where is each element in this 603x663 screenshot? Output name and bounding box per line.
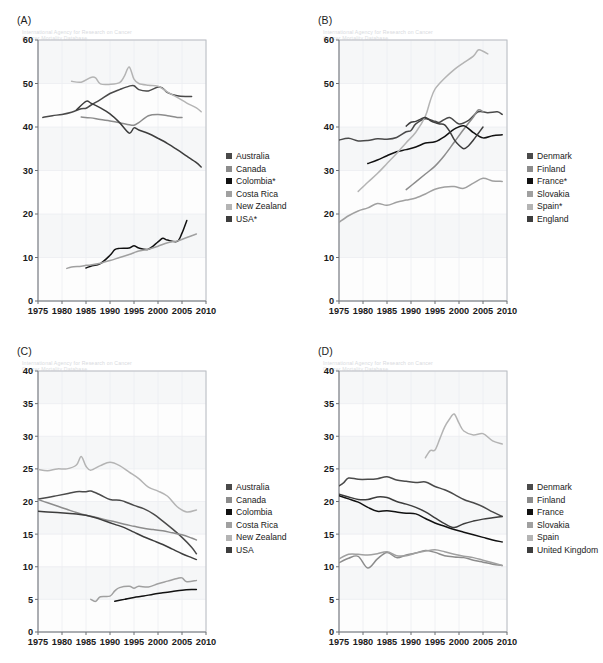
legend-swatch-icon [226,178,232,184]
legend-swatch-icon [226,484,232,490]
legend-swatch-icon [226,216,232,222]
legend-item[interactable]: Costa Rica [226,519,287,532]
legend-item[interactable]: Australia [226,481,287,494]
legend-item-label: France* [537,175,567,188]
y-tick-label: 20 [23,209,33,219]
legend-item-label: Finland [537,494,565,507]
legend-item[interactable]: New Zealand [226,531,287,544]
legend-item-label: United Kingdom [537,544,598,557]
legend-item-label: New Zealand [236,531,287,544]
legend-item[interactable]: United Kingdom [527,544,598,557]
x-tick-label: 1985 [377,637,397,647]
y-tick-label: 35 [23,399,33,409]
y-tick-label: 40 [23,122,33,132]
legend-swatch-icon [226,153,232,159]
legend-swatch-icon [226,522,232,528]
legend-swatch-icon [527,191,533,197]
x-tick-label: 1975 [28,306,48,316]
x-tick-label: 1975 [28,637,48,647]
legend-swatch-icon [226,535,232,541]
legend-item-label: Denmark [537,481,572,494]
legend-item[interactable]: France [527,506,598,519]
x-tick-label: 1980 [52,637,72,647]
legend-item-label: Australia [236,481,269,494]
x-tick-label: 1995 [425,637,445,647]
legend-item[interactable]: Slovakia [527,519,598,532]
x-tick-label: 2010 [497,306,517,316]
y-tick-label: 0 [329,296,334,306]
legend-item[interactable]: Colombia [226,506,287,519]
legend-item[interactable]: Finland [527,163,572,176]
legend-item-label: England [537,213,569,226]
legend-item-label: Spain [537,531,559,544]
legend-item[interactable]: USA* [226,213,287,226]
x-tick-label: 1985 [76,306,96,316]
y-tick-label: 40 [324,122,334,132]
legend-swatch-icon [527,535,533,541]
x-tick-label: 1985 [377,306,397,316]
x-tick-label: 2005 [172,306,192,316]
legend-item[interactable]: Finland [527,494,598,507]
panel-d: (D) International Agency for Research on… [301,331,602,662]
legend-item[interactable]: France* [527,175,572,188]
panel-a-legend: AustraliaCanadaColombia*Costa RicaNew Ze… [226,150,287,226]
y-tick-label: 20 [23,497,33,507]
x-tick-label: 2000 [449,637,469,647]
legend-item[interactable]: England [527,213,572,226]
y-tick-label: 30 [324,166,334,176]
legend-item-label: France [537,506,564,519]
panel-a: (A) International Agency for Research on… [0,0,301,331]
legend-item[interactable]: USA [226,544,287,557]
y-tick-label: 10 [324,562,334,572]
legend-item-label: Australia [236,150,269,163]
legend-item-label: Costa Rica [236,188,278,201]
legend-item[interactable]: Costa Rica [226,188,287,201]
y-tick-label: 15 [324,530,334,540]
legend-item-label: Slovakia [537,188,569,201]
legend-item[interactable]: Spain [527,531,598,544]
legend-item-label: Costa Rica [236,519,278,532]
legend-item[interactable]: Colombia* [226,175,287,188]
y-tick-label: 50 [324,79,334,89]
legend-item[interactable]: New Zealand [226,200,287,213]
panel-d-legend: DenmarkFinlandFranceSlovakiaSpainUnited … [527,481,598,557]
x-tick-label: 2005 [473,637,493,647]
x-tick-label: 1990 [100,637,120,647]
legend-swatch-icon [527,178,533,184]
panel-b: (B) International Agency for Research on… [301,0,602,331]
y-tick-label: 20 [324,209,334,219]
x-tick-label: 1985 [76,637,96,647]
y-tick-label: 25 [23,464,33,474]
legend-swatch-icon [527,497,533,503]
legend-item-label: USA* [236,213,257,226]
legend-item[interactable]: Slovakia [527,188,572,201]
y-tick-label: 40 [23,366,33,376]
x-tick-label: 1995 [124,637,144,647]
y-tick-label: 20 [324,497,334,507]
legend-item[interactable]: Spain* [527,200,572,213]
legend-swatch-icon [226,547,232,553]
legend-swatch-icon [527,166,533,172]
legend-swatch-icon [226,191,232,197]
x-tick-label: 2010 [196,637,216,647]
legend-swatch-icon [226,509,232,515]
x-tick-label: 2000 [148,306,168,316]
legend-item-label: Spain* [537,200,562,213]
panel-c: (C) International Agency for Research on… [0,331,301,662]
x-tick-label: 1975 [329,637,349,647]
legend-item[interactable]: Australia [226,150,287,163]
x-tick-label: 2005 [172,637,192,647]
legend-item[interactable]: Denmark [527,150,572,163]
legend-item[interactable]: Canada [226,163,287,176]
x-tick-label: 2000 [148,637,168,647]
legend-swatch-icon [527,547,533,553]
y-tick-label: 35 [324,399,334,409]
legend-item-label: Slovakia [537,519,569,532]
legend-item[interactable]: Canada [226,494,287,507]
legend-swatch-icon [527,204,533,210]
y-tick-label: 50 [23,79,33,89]
legend-item[interactable]: Denmark [527,481,598,494]
x-tick-label: 2005 [473,306,493,316]
x-tick-label: 1990 [401,306,421,316]
legend-swatch-icon [226,166,232,172]
